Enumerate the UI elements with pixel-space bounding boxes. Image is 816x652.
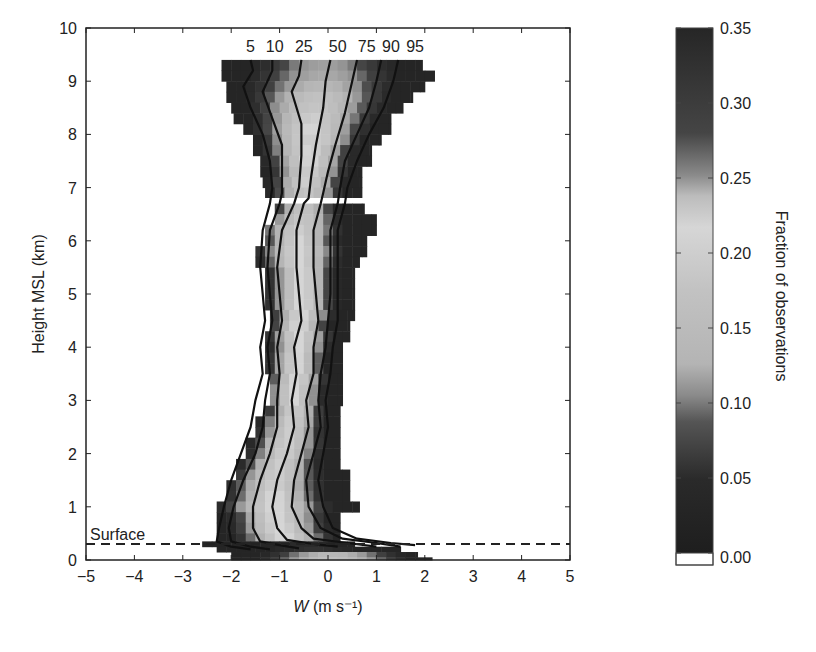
heatmap-cell: [294, 416, 304, 427]
heatmap-cell: [304, 204, 314, 215]
heatmap-cell: [313, 299, 323, 310]
heatmap-cell: [343, 491, 351, 502]
heatmap-cell: [328, 552, 338, 558]
heatmap-cell: [343, 501, 353, 512]
x-axis-title: W (m s⁻¹): [293, 598, 362, 615]
heatmap-cell: [323, 406, 333, 417]
heatmap-cell: [313, 547, 323, 553]
heatmap-cell: [352, 278, 355, 289]
colorbar-tick-label: 0.00: [720, 549, 751, 566]
heatmap-cell: [304, 289, 314, 300]
percentile-label-5: 5: [246, 38, 255, 55]
heatmap-cell: [284, 225, 294, 236]
x-tick-label: 0: [324, 568, 333, 585]
heatmap-cell: [359, 177, 362, 188]
heatmap-cell: [352, 235, 362, 246]
heatmap-cell: [265, 416, 275, 427]
heatmap-cell: [318, 310, 328, 321]
heatmap-cell: [260, 60, 270, 71]
heatmap-cell: [362, 214, 372, 225]
heatmap-cell: [352, 501, 360, 512]
heatmap-cell: [304, 278, 314, 289]
heatmap-cell: [265, 246, 275, 257]
colorbar-tick-label: 0.35: [720, 20, 751, 37]
heatmap-cell: [347, 321, 350, 332]
heatmap-cell: [275, 448, 285, 459]
heatmap-cell: [343, 235, 353, 246]
colorbar-tick-label: 0.15: [720, 320, 751, 337]
chart-figure: Surface 5102550759095 −5−4−3−2−1012345 0…: [0, 0, 816, 652]
heatmap-cell: [309, 60, 319, 71]
x-tick-label: −4: [125, 568, 143, 585]
heatmap-cell: [265, 533, 275, 541]
heatmap-cell: [301, 113, 311, 124]
heatmap-cell: [275, 188, 285, 199]
data-gap-band: [86, 198, 570, 203]
heatmap-cell: [304, 406, 314, 417]
heatmap-cell: [280, 552, 290, 558]
heatmap-cell: [289, 310, 299, 321]
y-tick-label: 10: [59, 20, 77, 37]
heatmap-cell: [282, 145, 292, 156]
heatmap-cell: [338, 71, 348, 82]
heatmap-cell: [347, 102, 357, 113]
heatmap-cell: [289, 60, 299, 71]
heatmap-cell: [309, 552, 319, 558]
heatmap-cell: [357, 102, 367, 113]
colorbar-tick-label: 0.30: [720, 95, 751, 112]
x-tick-label: −1: [270, 568, 288, 585]
heatmap-cell: [367, 552, 377, 558]
heatmap-cell: [333, 480, 343, 491]
heatmap-cell: [280, 384, 290, 395]
heatmap-cell: [304, 331, 314, 342]
heatmap-cell: [313, 81, 323, 92]
heatmap-cell: [280, 395, 290, 406]
heatmap-cell: [323, 480, 333, 491]
heatmap-cell: [311, 177, 321, 188]
heatmap-cell: [270, 552, 280, 558]
heatmap-cell: [265, 353, 275, 364]
heatmap-cell: [246, 512, 256, 523]
heatmap-cell: [367, 60, 377, 71]
heatmap-cell: [284, 267, 294, 278]
heatmap-cell: [323, 459, 333, 470]
heatmap-cell: [270, 156, 280, 167]
heatmap-cell: [328, 71, 338, 82]
heatmap-cell: [396, 71, 406, 82]
heatmap-cell: [304, 299, 314, 310]
colorbar-tick-label: 0.25: [720, 170, 751, 187]
heatmap-cell: [328, 384, 338, 395]
heatmap-cell: [343, 246, 353, 257]
heatmap-cell: [284, 363, 294, 374]
heatmap-cell: [280, 102, 290, 113]
heatmap-cell: [343, 267, 353, 278]
heatmap-cell: [333, 353, 343, 364]
heatmap-cell: [275, 81, 285, 92]
y-tick-label: 5: [68, 286, 77, 303]
heatmap-cell: [369, 134, 379, 145]
heatmap-cell: [333, 427, 341, 438]
percentile-label-75: 75: [358, 38, 376, 55]
heatmap-cell: [280, 60, 290, 71]
heatmap-cell: [362, 246, 367, 257]
heatmap-cell: [328, 395, 338, 406]
heatmap-cell: [280, 71, 290, 82]
heatmap-cell: [284, 246, 294, 257]
y-tick-label: 7: [68, 180, 77, 197]
heatmap-cell: [352, 81, 362, 92]
heatmap-cell: [299, 552, 309, 558]
heatmap-cell: [389, 124, 392, 135]
surface-label: Surface: [90, 526, 145, 543]
y-tick-label: 8: [68, 126, 77, 143]
heatmap-cell: [253, 145, 263, 156]
heatmap-cell: [231, 552, 241, 558]
heatmap-cell: [294, 491, 304, 502]
heatmap-cell: [282, 177, 292, 188]
heatmap-cell: [343, 480, 351, 491]
heatmap-cell: [282, 113, 292, 124]
heatmap-cell: [425, 71, 435, 82]
heatmap-cell: [338, 552, 348, 558]
x-tick-label: −5: [77, 568, 95, 585]
y-tick-label: 6: [68, 233, 77, 250]
heatmap-cell: [275, 438, 285, 449]
